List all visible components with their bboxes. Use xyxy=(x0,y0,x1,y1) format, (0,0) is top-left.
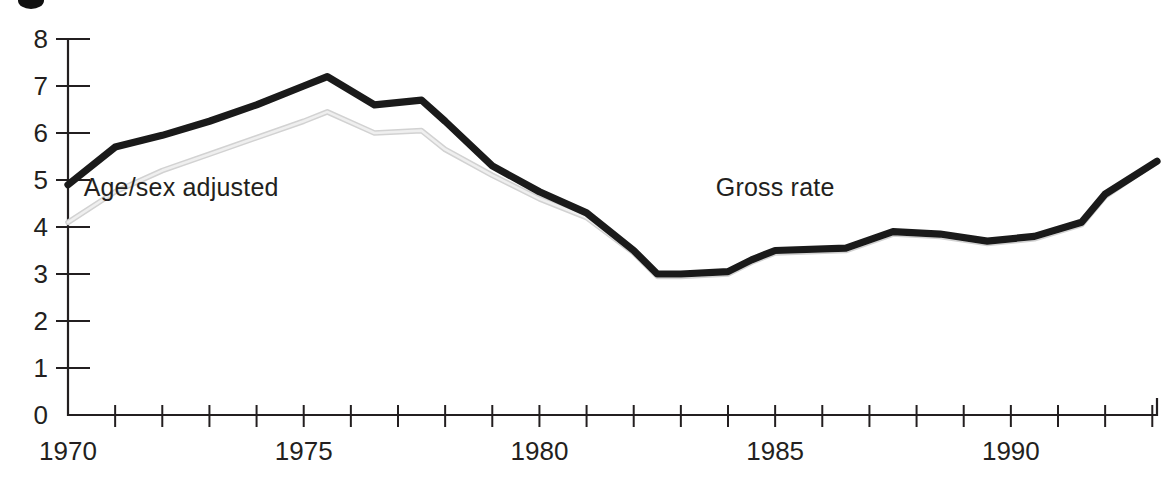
y-tick-label: 5 xyxy=(34,165,48,195)
annotation-group: Age/sex adjustedGross rate xyxy=(84,173,835,201)
x-tick-label: 1990 xyxy=(982,436,1040,466)
axis-frame xyxy=(68,39,1157,415)
y-tick-group xyxy=(56,39,90,368)
x-tick-label: 1975 xyxy=(275,436,333,466)
x-tick-label: 1980 xyxy=(511,436,569,466)
chart-figure: 012345678 19701975198019851990 Age/sex a… xyxy=(0,0,1174,490)
line-chart-canvas: 012345678 19701975198019851990 Age/sex a… xyxy=(0,0,1174,490)
y-tick-label-group: 012345678 xyxy=(34,24,48,430)
x-tick-label: 1985 xyxy=(746,436,804,466)
y-tick-label: 0 xyxy=(34,400,48,430)
y-tick-label: 2 xyxy=(34,306,48,336)
x-tick-label: 1970 xyxy=(39,436,97,466)
y-tick-label: 3 xyxy=(34,259,48,289)
annotation-age-sex-adjusted: Age/sex adjusted xyxy=(84,173,279,201)
y-tick-label: 7 xyxy=(34,71,48,101)
y-tick-label: 6 xyxy=(34,118,48,148)
y-tick-label: 8 xyxy=(34,24,48,54)
y-tick-label: 1 xyxy=(34,353,48,383)
annotation-gross-rate: Gross rate xyxy=(716,173,835,201)
y-tick-label: 4 xyxy=(34,212,48,242)
x-tick-label-group: 19701975198019851990 xyxy=(39,436,1040,466)
